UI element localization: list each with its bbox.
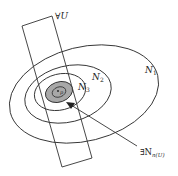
label-n3: N3 xyxy=(77,82,90,93)
arrow-line xyxy=(71,105,137,146)
point-p xyxy=(57,90,59,92)
label-exists-nn: ∃Nn(U) xyxy=(140,147,165,158)
label-n2: N2 xyxy=(91,72,104,83)
label-forall-u: ∀U xyxy=(55,11,68,21)
neighborhood-diagram: p ∀U N1 N2 N3 ∃Nn(U) xyxy=(0,0,178,176)
label-n1: N1 xyxy=(144,65,157,76)
